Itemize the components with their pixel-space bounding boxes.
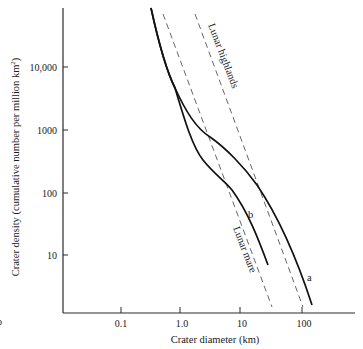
y-tick-label: 10 <box>47 250 57 261</box>
y-tick-labels: 10,000 1000 100 10 <box>30 62 58 261</box>
x-tick-label: 0.1 <box>115 318 128 329</box>
x-axis-title: Crater diameter (km) <box>171 334 260 346</box>
x-tick-labels: 0.1 1.0 10 100 <box>115 318 312 329</box>
x-tick-label: 100 <box>297 318 312 329</box>
y-tick-label: 1000 <box>37 125 57 136</box>
curve-a <box>151 8 312 305</box>
y-tick-label: 100 <box>42 188 57 199</box>
y-ticks <box>63 67 68 255</box>
y-axis-title: Crater density (cumulative number per mi… <box>9 57 22 276</box>
curve-b-label: b <box>248 209 253 220</box>
x-ticks <box>121 307 302 313</box>
x-tick-label: 10 <box>237 318 247 329</box>
crater-density-chart: 10,000 1000 100 10 0.1 1.0 10 100 Crater… <box>0 0 363 349</box>
x-tick-label: 1.0 <box>176 318 189 329</box>
y-tick-label: 10,000 <box>30 62 58 73</box>
lunar-highlands-label: Lunar highlands <box>206 22 241 90</box>
edge-fragment: o <box>0 316 2 327</box>
curve-a-label: a <box>307 272 312 283</box>
axes <box>63 8 355 313</box>
